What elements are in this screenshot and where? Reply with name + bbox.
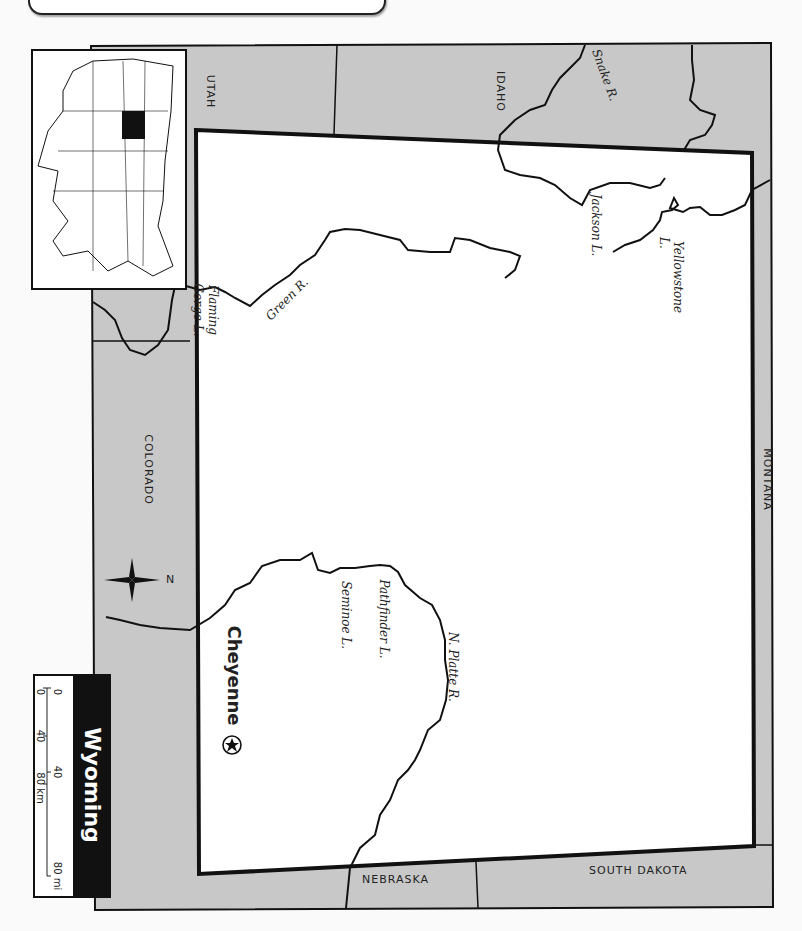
label-capital-cheyenne: Cheyenne: [224, 625, 245, 725]
label-utah: UTAH: [204, 75, 217, 109]
label-south-dakota: SOUTH DAKOTA: [589, 864, 688, 877]
label-yellowstone-lake-2: L.: [657, 237, 671, 249]
scale-mi-40: 40: [52, 766, 63, 779]
label-colorado: COLORADO: [142, 434, 155, 505]
scale-km-40: 40: [35, 730, 46, 743]
star-in-circle-icon: [223, 736, 241, 754]
map-title: Wyoming: [80, 727, 105, 843]
title-legend: 0 40 80 mi 0 40 80 km Wyoming: [33, 674, 111, 896]
label-flaming-gorge-1: Flaming: [206, 285, 220, 335]
scale-bar-panel: 0 40 80 mi 0 40 80 km: [33, 674, 75, 898]
label-north-platte-river: N. Platte R.: [446, 632, 460, 702]
locator-inset: [31, 49, 187, 290]
us-locator-map: [33, 51, 185, 288]
scale-mi-80: 80 mi: [52, 862, 63, 890]
label-flaming-gorge-2: Gorge L.: [191, 284, 205, 337]
label-seminoe-lake: Seminoe L.: [339, 581, 353, 649]
label-pathfinder-lake: Pathfinder L.: [377, 579, 391, 658]
label-jackson-lake: Jackson L.: [589, 194, 603, 257]
label-montana: MONTANA: [761, 448, 774, 511]
scale-km-0: 0: [35, 689, 46, 695]
scale-mi-0: 0: [52, 689, 63, 695]
compass-north-label: N: [166, 573, 174, 586]
wyoming-locator-marker: [122, 111, 145, 139]
label-nebraska: NEBRASKA: [362, 873, 429, 886]
label-idaho: IDAHO: [494, 71, 507, 112]
label-yellowstone-lake-1: Yellowstone: [671, 241, 685, 313]
scale-km-80: 80 km: [35, 772, 46, 803]
